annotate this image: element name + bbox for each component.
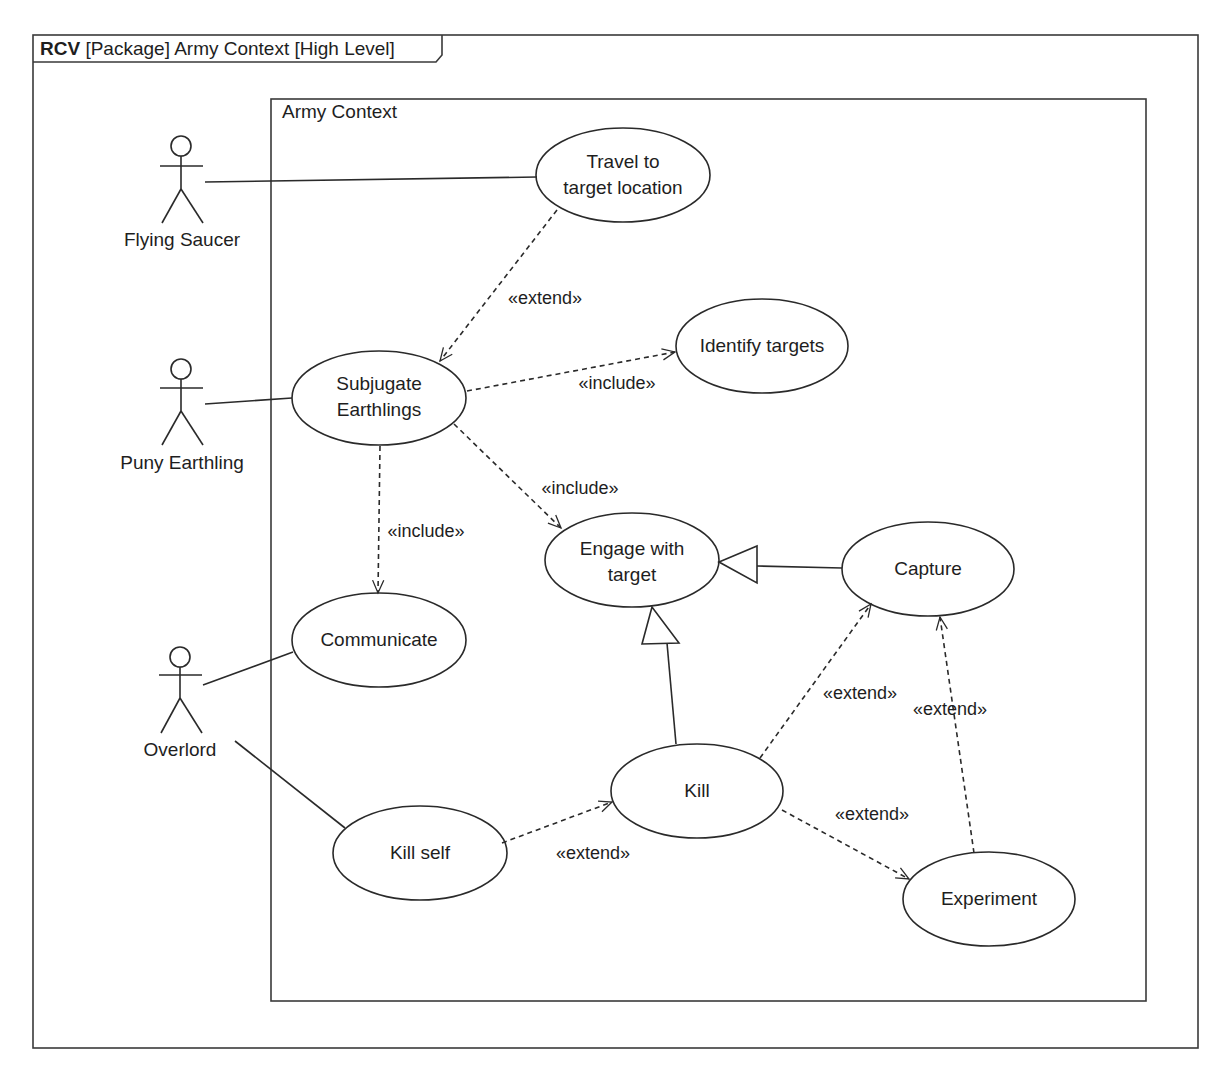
- use-case-label-travel: Travel to target location: [563, 149, 682, 201]
- include-subjugate-to-communicate: [378, 446, 380, 593]
- frame-keyword: RCV: [40, 38, 80, 59]
- extend-kill-to-capture: [760, 604, 871, 758]
- stereotype-include-subjugate-engage: «include»: [541, 478, 618, 499]
- use-case-label-communicate: Communicate: [320, 627, 437, 653]
- stereotype-extend-experiment-capture: «extend»: [913, 699, 987, 720]
- actor-label-puny-earthling: Puny Earthling: [120, 452, 244, 474]
- stereotype-include-subjugate-communicate: «include»: [387, 521, 464, 542]
- stereotype-extend-kill-self-kill: «extend»: [556, 843, 630, 864]
- actor-overlord-icon[interactable]: [159, 647, 202, 733]
- frame-title: RCV [Package] Army Context [High Level]: [40, 38, 395, 60]
- include-subjugate-to-engage: [454, 424, 561, 528]
- use-case-label-kill: Kill: [684, 778, 709, 804]
- generalization-capture-to-engage: [719, 546, 842, 583]
- extend-kill-self-to-kill: [502, 802, 612, 843]
- association-overlord-kill-self: [235, 741, 345, 828]
- system-boundary-title: Army Context: [282, 101, 397, 123]
- extend-travel-to-subjugate: [440, 210, 557, 361]
- use-case-label-subjugate: Subjugate Earthlings: [336, 371, 422, 423]
- use-case-label-capture: Capture: [894, 556, 962, 582]
- generalization-kill-to-engage: [642, 607, 679, 744]
- use-case-label-identify: Identify targets: [700, 333, 825, 359]
- stereotype-include-subjugate-identify: «include»: [578, 373, 655, 394]
- frame-title-text: [Package] Army Context [High Level]: [85, 38, 394, 59]
- actor-label-overlord: Overlord: [144, 739, 217, 761]
- actor-label-flying-saucer: Flying Saucer: [124, 229, 240, 251]
- use-case-label-experiment: Experiment: [941, 886, 1037, 912]
- association-flying-saucer-travel: [205, 177, 537, 182]
- association-puny-earthling-subjugate: [205, 398, 292, 404]
- association-overlord-communicate: [203, 652, 293, 685]
- actor-flying-saucer-icon[interactable]: [160, 136, 203, 223]
- stereotype-extend-travel-subjugate: «extend»: [508, 288, 582, 309]
- use-case-label-engage: Engage with target: [580, 536, 685, 588]
- use-case-label-kill-self: Kill self: [390, 840, 450, 866]
- actor-puny-earthling-icon[interactable]: [160, 359, 203, 445]
- stereotype-extend-kill-experiment: «extend»: [835, 804, 909, 825]
- stereotype-extend-kill-capture: «extend»: [823, 683, 897, 704]
- extend-experiment-to-capture: [940, 617, 974, 853]
